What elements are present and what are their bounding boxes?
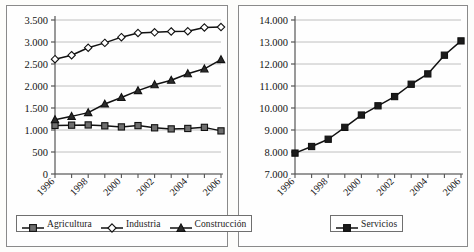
data-point-marker	[201, 65, 208, 72]
y-axis-tick-label: 3.500	[24, 15, 48, 26]
data-point-marker	[342, 124, 348, 130]
data-point-marker	[218, 128, 224, 134]
data-point-marker	[184, 28, 191, 35]
legend-label: Agricultura	[47, 219, 92, 229]
data-point-marker	[408, 81, 414, 87]
x-axis-tick-label: 2004	[407, 176, 429, 198]
data-point-marker	[168, 126, 174, 132]
y-axis-tick-label: 12.000	[259, 59, 288, 70]
sectors-panel: 05001.0001.5002.0002.5003.0003.500199619…	[6, 5, 228, 247]
services-line-chart: 7.0008.0009.00010.00011.00012.00013.0001…	[239, 6, 467, 246]
data-point-marker	[68, 52, 75, 59]
data-point-marker	[217, 56, 224, 63]
x-axis-tick-label: 2006	[200, 176, 222, 198]
legend-item-industria[interactable]: Industria	[101, 219, 161, 229]
data-point-marker	[309, 143, 315, 149]
x-axis-tick-label: 1998	[308, 176, 330, 198]
data-point-marker	[292, 150, 298, 156]
services-plot-area: 7.0008.0009.00010.00011.00012.00013.0001…	[239, 6, 467, 246]
legend-marker-triangle-icon	[170, 219, 192, 229]
legend-item-construccin[interactable]: Construcción	[170, 219, 247, 229]
y-axis-tick-label: 14.000	[259, 15, 288, 26]
x-axis-tick-label: 2006	[440, 176, 462, 198]
data-point-marker	[51, 55, 58, 62]
data-point-marker	[358, 112, 364, 118]
legend-marker-diamond-icon	[101, 219, 123, 229]
data-point-marker	[135, 123, 141, 129]
data-point-marker	[217, 23, 224, 30]
legend-label: Servicios	[361, 219, 397, 229]
sectors-legend: AgriculturaIndustriaConstrucción	[16, 215, 252, 232]
x-axis-tick-label: 2002	[134, 176, 156, 198]
legend-item-agricultura[interactable]: Agricultura	[22, 219, 92, 229]
data-point-marker	[201, 24, 208, 31]
series-line-servicios	[295, 41, 461, 153]
data-point-marker	[201, 124, 207, 130]
data-point-marker	[102, 123, 108, 129]
y-axis-tick-label: 1.500	[24, 103, 48, 114]
services-panel: 7.0008.0009.00010.00011.00012.00013.0001…	[238, 5, 468, 247]
y-axis-tick-label: 10.000	[259, 103, 288, 114]
figure-canvas: 05001.0001.5002.0002.5003.0003.500199619…	[0, 0, 474, 252]
data-point-marker	[151, 29, 158, 36]
x-axis-tick-label: 2004	[167, 176, 189, 198]
data-point-marker	[425, 71, 431, 77]
y-axis-tick-label: 13.000	[259, 37, 288, 48]
data-point-marker	[185, 125, 191, 131]
legend-marker-square-icon	[22, 219, 44, 229]
y-axis-tick-label: 11.000	[260, 81, 289, 92]
legend-label: Industria	[126, 219, 161, 229]
y-axis-tick-label: 500	[32, 147, 48, 158]
sectors-plot-area: 05001.0001.5002.0002.5003.0003.500199619…	[7, 6, 227, 246]
data-point-marker	[118, 124, 124, 130]
sectors-line-chart: 05001.0001.5002.0002.5003.0003.500199619…	[7, 6, 227, 246]
data-point-marker	[101, 39, 108, 46]
data-point-marker	[69, 122, 75, 128]
data-point-marker	[458, 38, 464, 44]
y-axis-tick-label: 7.000	[264, 169, 288, 180]
data-point-marker	[152, 125, 158, 131]
x-axis-tick-label: 2000	[101, 176, 123, 198]
x-axis-tick-label: 2002	[374, 176, 396, 198]
data-point-marker	[85, 109, 92, 116]
x-axis-tick-label: 1998	[68, 176, 90, 198]
y-axis-tick-label: 3.000	[24, 37, 48, 48]
y-axis-tick-label: 2.000	[24, 81, 48, 92]
data-point-marker	[134, 29, 141, 36]
y-axis-tick-label: 9.000	[264, 125, 288, 136]
x-axis-tick-label: 2000	[341, 176, 363, 198]
x-axis-tick-label: 1996	[34, 176, 56, 198]
services-legend: Servicios	[330, 215, 403, 232]
y-axis-tick-label: 1.000	[24, 125, 48, 136]
legend-item-servicios[interactable]: Servicios	[336, 219, 397, 229]
y-axis-tick-label: 2.500	[24, 59, 48, 70]
data-point-marker	[375, 103, 381, 109]
data-point-marker	[85, 44, 92, 51]
data-point-marker	[325, 136, 331, 142]
legend-label: Construcción	[195, 219, 247, 229]
y-axis-tick-label: 8.000	[264, 147, 288, 158]
data-point-marker	[441, 52, 447, 58]
data-point-marker	[85, 122, 91, 128]
data-point-marker	[118, 33, 125, 40]
data-point-marker	[392, 93, 398, 99]
data-point-marker	[168, 28, 175, 35]
legend-marker-square-icon	[336, 219, 358, 229]
